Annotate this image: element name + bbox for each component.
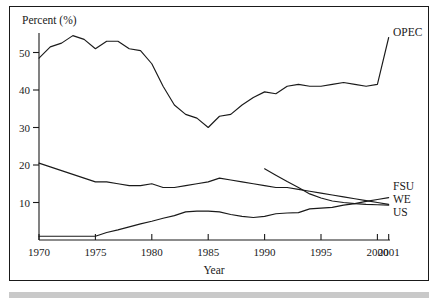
series-label-us: US [393, 206, 408, 218]
y-tick-label-20: 20 [19, 159, 31, 171]
x-tick-label-1990: 1990 [254, 246, 277, 258]
line-chart-plot: 1020304050 19701975198019851990199520002… [0, 0, 439, 305]
y-tick-label-50: 50 [19, 47, 31, 59]
axes [39, 33, 390, 240]
y-axis-ticks: 1020304050 [19, 47, 39, 209]
x-axis-ticks: 19701975198019851990199520002001 [28, 234, 400, 258]
y-tick-label-30: 30 [19, 122, 31, 134]
series-labels: OPECWEUSFSU [393, 26, 423, 218]
series-line-opec [39, 36, 389, 128]
x-tick-label-1995: 1995 [310, 246, 333, 258]
x-tick-label-1980: 1980 [141, 246, 164, 258]
x-tick-label-1970: 1970 [28, 246, 51, 258]
y-axis-title: Percent (%) [22, 14, 77, 27]
series-line-we [39, 163, 389, 204]
series-label-opec: OPEC [393, 26, 423, 38]
x-axis-title: Year [203, 264, 224, 276]
chart-figure: 1020304050 19701975198019851990199520002… [0, 0, 439, 305]
series-label-fsu: FSU [393, 180, 415, 192]
x-tick-label-2001: 2001 [378, 246, 400, 258]
x-tick-label-1975: 1975 [84, 246, 107, 258]
series-line-us [39, 198, 389, 237]
x-tick-label-1985: 1985 [197, 246, 220, 258]
y-tick-label-10: 10 [19, 197, 31, 209]
series-lines [39, 36, 389, 237]
y-tick-label-40: 40 [19, 84, 31, 96]
series-label-we: WE [393, 193, 411, 205]
